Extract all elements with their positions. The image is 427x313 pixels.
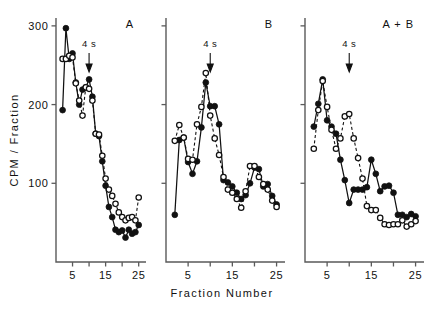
data-point-open-circle bbox=[136, 195, 141, 200]
data-point-open-circle bbox=[86, 86, 91, 91]
data-point-open-circle bbox=[378, 215, 383, 220]
data-point-open-circle bbox=[212, 136, 217, 141]
annotation-label: 4 s bbox=[203, 38, 217, 49]
data-point-open-circle bbox=[355, 155, 360, 160]
data-point-open-circle bbox=[400, 218, 405, 223]
data-point-filled-circle bbox=[86, 77, 92, 83]
data-point-open-circle bbox=[208, 113, 213, 118]
data-point-open-circle bbox=[73, 81, 78, 86]
annotation-arrow-head bbox=[346, 64, 352, 72]
data-point-open-circle bbox=[320, 78, 325, 83]
data-point-open-circle bbox=[103, 176, 108, 181]
data-point-open-circle bbox=[133, 218, 138, 223]
data-point-open-circle bbox=[311, 146, 316, 151]
panel-label-1: B bbox=[265, 18, 273, 30]
data-point-open-circle bbox=[329, 127, 334, 132]
data-point-open-circle bbox=[80, 113, 85, 118]
data-point-open-circle bbox=[338, 136, 343, 141]
x-tick-label: 15 bbox=[226, 269, 239, 281]
annotation-label: 4 s bbox=[342, 38, 356, 49]
figure-container: 100200300515254 sA515254 sB515254 sA + B… bbox=[0, 0, 427, 313]
x-tick-label: 15 bbox=[365, 269, 378, 281]
data-point-open-circle bbox=[221, 174, 226, 179]
panel-A: 100200300515254 sA bbox=[28, 18, 146, 281]
data-point-open-circle bbox=[194, 122, 199, 127]
data-point-open-circle bbox=[360, 176, 365, 181]
x-tick-label: 5 bbox=[69, 269, 76, 281]
data-point-open-circle bbox=[265, 187, 270, 192]
y-tick-label: 300 bbox=[28, 20, 48, 32]
panel-B: 515254 sB bbox=[162, 18, 286, 281]
data-point-open-circle bbox=[113, 201, 118, 206]
data-point-filled-circle bbox=[172, 212, 178, 218]
data-point-filled-circle bbox=[391, 190, 397, 196]
data-point-filled-circle bbox=[315, 101, 321, 107]
data-point-open-circle bbox=[110, 193, 115, 198]
data-point-open-circle bbox=[373, 207, 378, 212]
annotation-arrow-head bbox=[86, 64, 92, 72]
x-axis-title: Fraction Number bbox=[171, 287, 274, 299]
data-point-open-circle bbox=[239, 205, 244, 210]
data-point-open-circle bbox=[347, 111, 352, 116]
annotation-label: 4 s bbox=[82, 38, 96, 49]
data-point-open-circle bbox=[96, 132, 101, 137]
data-point-open-circle bbox=[333, 146, 338, 151]
x-tick-label: 25 bbox=[409, 269, 422, 281]
x-tick-label: 5 bbox=[324, 269, 331, 281]
data-point-filled-circle bbox=[338, 157, 344, 163]
data-point-filled-circle bbox=[63, 25, 69, 31]
panel-AB: 515254 sA + B bbox=[301, 18, 425, 281]
data-point-filled-circle bbox=[60, 107, 66, 113]
y-axis-title: CPM / Fraction bbox=[8, 94, 20, 187]
data-point-filled-circle bbox=[106, 204, 112, 210]
panel-label-2: A + B bbox=[382, 18, 414, 30]
data-point-open-circle bbox=[324, 104, 329, 109]
data-point-open-circle bbox=[199, 104, 204, 109]
series-line-filled-circles-solid bbox=[175, 83, 277, 215]
y-tick-label: 100 bbox=[28, 177, 48, 189]
data-point-open-circle bbox=[203, 70, 208, 75]
data-point-filled-circle bbox=[373, 171, 379, 177]
x-tick-label: 25 bbox=[132, 269, 145, 281]
data-point-open-circle bbox=[106, 187, 111, 192]
data-point-open-circle bbox=[181, 135, 186, 140]
data-point-filled-circle bbox=[216, 121, 222, 127]
data-point-filled-circle bbox=[364, 184, 370, 190]
data-point-open-circle bbox=[413, 218, 418, 223]
data-point-filled-circle bbox=[109, 214, 115, 220]
data-point-filled-circle bbox=[247, 180, 253, 186]
data-point-open-circle bbox=[274, 204, 279, 209]
y-tick-label: 200 bbox=[28, 99, 48, 111]
data-point-filled-circle bbox=[386, 183, 392, 189]
data-point-open-circle bbox=[70, 55, 75, 60]
data-point-open-circle bbox=[216, 152, 221, 157]
x-tick-label: 25 bbox=[270, 269, 283, 281]
data-point-filled-circle bbox=[377, 188, 383, 194]
panel-label-0: A bbox=[126, 18, 134, 30]
series-line-filled-circles-solid bbox=[314, 79, 416, 217]
data-point-filled-circle bbox=[119, 228, 125, 234]
data-point-open-circle bbox=[77, 98, 82, 103]
data-point-filled-circle bbox=[99, 158, 105, 164]
data-point-open-circle bbox=[270, 198, 275, 203]
data-point-filled-circle bbox=[346, 200, 352, 206]
data-point-filled-circle bbox=[133, 229, 139, 235]
data-point-filled-circle bbox=[190, 171, 196, 177]
data-point-open-circle bbox=[177, 122, 182, 127]
multi-panel-chart: 100200300515254 sA515254 sB515254 sA + B… bbox=[0, 0, 427, 313]
data-point-filled-circle bbox=[368, 157, 374, 163]
data-point-filled-circle bbox=[212, 103, 218, 109]
data-point-open-circle bbox=[100, 153, 105, 158]
data-point-open-circle bbox=[351, 136, 356, 141]
data-point-open-circle bbox=[243, 189, 248, 194]
data-point-open-circle bbox=[316, 107, 321, 112]
data-point-filled-circle bbox=[342, 177, 348, 183]
data-point-open-circle bbox=[90, 98, 95, 103]
x-tick-label: 5 bbox=[185, 269, 192, 281]
data-point-open-circle bbox=[230, 190, 235, 195]
x-tick-label: 15 bbox=[99, 269, 112, 281]
data-point-open-circle bbox=[172, 138, 177, 143]
data-point-open-circle bbox=[256, 174, 261, 179]
data-point-open-circle bbox=[234, 196, 239, 201]
data-point-open-circle bbox=[190, 157, 195, 162]
